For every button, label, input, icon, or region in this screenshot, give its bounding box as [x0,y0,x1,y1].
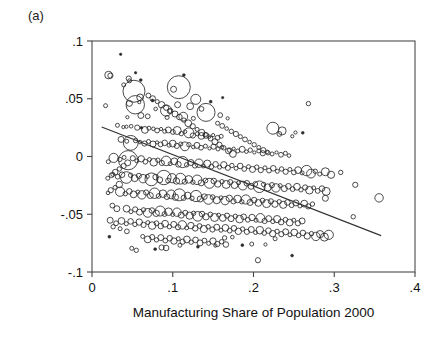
data-point [200,225,207,232]
data-point [306,101,310,105]
data-point [146,93,151,98]
data-point [209,100,212,103]
data-point [256,214,265,223]
data-point [233,131,238,136]
data-point [231,235,235,239]
data-point [225,127,229,131]
data-point [155,128,160,133]
data-point [191,116,195,120]
data-point [288,167,292,171]
data-point [194,142,200,148]
data-point [144,236,151,243]
data-point [270,152,274,156]
data-point [139,79,142,82]
data-point [123,80,145,102]
plot-frame [92,41,415,272]
data-point [143,159,148,164]
data-point [125,160,131,166]
data-point [138,156,144,162]
x-axis-ticks: 0.1.2.3.4 [88,272,420,295]
data-point [252,143,256,147]
data-point [255,200,262,207]
data-point [197,245,200,248]
data-point [111,225,115,229]
data-point [197,103,215,121]
x-tick-label: 0 [88,280,95,295]
data-point [261,148,266,153]
data-point [353,182,358,187]
x-tick-label: .3 [329,280,340,295]
data-point [118,227,122,231]
data-point [241,244,244,247]
data-point [190,124,195,129]
data-point [266,151,270,155]
data-point [226,117,229,120]
data-point [250,242,254,246]
data-point [322,195,328,201]
data-point [154,248,157,251]
data-point [106,191,110,195]
x-tick-label: .2 [248,280,259,295]
data-point [256,226,264,234]
data-point [122,125,125,128]
data-point [176,237,180,241]
data-point [291,229,298,236]
data-point [202,238,207,243]
data-points-layer [104,53,384,263]
data-point [255,258,260,263]
data-point [221,196,229,204]
data-point [294,183,301,190]
data-point [283,151,287,155]
y-tick-label: .05 [65,91,83,106]
data-point [312,232,320,240]
data-point [141,234,145,238]
data-point [238,135,242,139]
data-point [203,144,207,148]
data-point [122,155,126,159]
data-point [118,218,125,225]
data-point [222,224,229,231]
data-point [119,53,121,55]
data-point [216,121,220,125]
data-point [321,168,329,176]
data-point [248,148,252,152]
data-point [258,168,263,173]
data-point [109,153,118,162]
data-point [141,222,146,227]
data-point [167,76,190,99]
data-point [291,135,294,138]
y-tick-label: -.05 [61,207,83,222]
data-point [279,152,284,157]
data-point [243,137,248,142]
data-point [136,219,142,225]
data-point [275,169,279,173]
data-point [230,151,237,158]
data-point [204,160,211,167]
x-tick-label: .4 [410,280,421,295]
data-point [107,217,113,223]
data-point [287,154,291,158]
data-point [245,150,249,154]
data-point [231,226,237,232]
data-point [253,151,256,154]
x-tick-label: .1 [167,280,178,295]
data-point [310,202,314,206]
data-point [264,243,267,246]
data-point [211,213,219,221]
data-point [171,86,177,92]
data-point [155,206,165,216]
data-point [116,181,122,187]
data-point [155,100,159,104]
data-point [186,212,193,219]
data-point [135,125,140,130]
data-point [145,114,150,119]
y-tick-label: -.1 [68,265,83,280]
figure-panel-a: (a) Change in Employment Rate Manufactur… [0,0,437,341]
data-point [195,127,199,131]
data-point [291,254,294,257]
data-point [129,124,133,128]
y-tick-label: .1 [72,34,83,49]
data-point [126,116,129,119]
data-point [104,104,108,108]
data-point [134,248,138,252]
